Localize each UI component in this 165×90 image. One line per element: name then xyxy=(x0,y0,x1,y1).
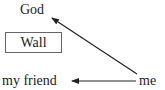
arrow-me-to-god xyxy=(52,18,137,74)
arrows-layer xyxy=(0,0,165,90)
